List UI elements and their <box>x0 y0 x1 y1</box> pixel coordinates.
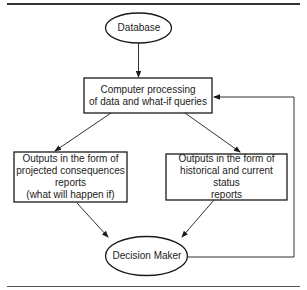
decision-maker-label-text: Decision Maker <box>113 250 182 262</box>
database-label-text: Database <box>118 22 161 34</box>
processing-label: Computer processing of data and what-if … <box>84 78 212 113</box>
processing-line-1: Computer processing <box>100 84 195 96</box>
processing-line-2: of data and what-if queries <box>89 96 207 108</box>
edge-projected-to-decision-maker <box>77 203 108 237</box>
historical-label: Outputs in the form of historical and cu… <box>166 154 287 200</box>
edge-historical-to-decision-maker <box>182 200 214 237</box>
decision-maker-label: Decision Maker <box>106 237 188 275</box>
edge-processing-to-projected <box>55 113 111 151</box>
edge-processing-to-historical <box>185 113 240 152</box>
historical-line-3: reports <box>211 189 242 201</box>
projected-label: Outputs in the form of projected consequ… <box>14 152 127 202</box>
projected-line-4: (what will happen if) <box>26 189 114 201</box>
historical-line-2: historical and current status <box>166 165 287 189</box>
projected-line-3: reports <box>55 177 86 189</box>
historical-line-1: Outputs in the form of <box>178 153 274 165</box>
projected-line-2: projected consequences <box>16 165 124 177</box>
projected-line-1: Outputs in the form of <box>22 153 118 165</box>
database-label: Database <box>106 14 172 42</box>
